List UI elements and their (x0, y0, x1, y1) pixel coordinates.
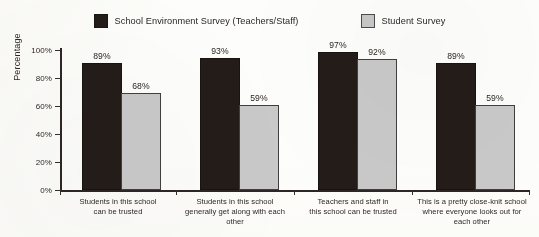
bar-value-group-2-teachers: 93% (211, 46, 229, 56)
x-tick-2 (294, 190, 295, 195)
x-tick-3 (412, 190, 413, 195)
bar-chart: School Environment Survey (Teachers/Staf… (0, 0, 539, 237)
x-category-label-4-line-2: where everyone looks out for (412, 207, 532, 217)
light-square-icon (361, 14, 375, 28)
plot-area: 89% 68% 93% 59% 97% 92% 89% 59% (60, 50, 528, 190)
x-category-label-3-line-2: this school can be trusted (296, 207, 410, 217)
bar-value-group-2-students: 59% (250, 93, 268, 103)
x-category-label-2: Students in this school generally get al… (178, 197, 292, 227)
x-category-label-1-line-1: Students in this school (62, 197, 174, 207)
y-tick-label-20: 20% (18, 158, 52, 167)
bar-value-group-1-students: 68% (132, 81, 150, 91)
chart-legend: School Environment Survey (Teachers/Staf… (0, 11, 539, 31)
legend-entry-school-environment-survey: School Environment Survey (Teachers/Staf… (94, 14, 299, 28)
x-tick-1 (176, 190, 177, 195)
bar-value-group-1-teachers: 89% (93, 51, 111, 61)
bar-group-3-students: 92% (357, 59, 397, 190)
bar-value-group-3-teachers: 97% (329, 40, 347, 50)
bar-group-1-teachers: 89% (82, 63, 122, 190)
bar-group-3-teachers: 97% (318, 52, 358, 190)
y-tick-label-80: 80% (18, 74, 52, 83)
legend-label-school-environment-survey: School Environment Survey (Teachers/Staf… (115, 16, 299, 26)
bar-value-group-4-teachers: 89% (447, 51, 465, 61)
x-tick-4 (529, 190, 530, 195)
bar-value-group-3-students: 92% (368, 47, 386, 57)
bar-group-1-students: 68% (121, 93, 161, 190)
x-category-label-2-line-1: Students in this school (178, 197, 292, 207)
x-category-label-4: This is a pretty close-knit school where… (412, 197, 532, 227)
x-category-label-2-line-3: other (178, 217, 292, 227)
y-tick-label-40: 40% (18, 130, 52, 139)
bar-group-2-students: 59% (239, 105, 279, 190)
x-tick-0 (60, 190, 61, 195)
x-axis-line (60, 190, 530, 192)
x-category-label-2-line-2: generally get along with each (178, 207, 292, 217)
x-category-label-1-line-2: can be trusted (62, 207, 174, 217)
dark-square-icon (94, 14, 108, 28)
bar-group-4-students: 59% (475, 105, 515, 190)
legend-entry-student-survey: Student Survey (361, 14, 446, 28)
bar-group-4-teachers: 89% (436, 63, 476, 190)
y-tick-label-100: 100% (18, 46, 52, 55)
x-category-label-4-line-3: each other (412, 217, 532, 227)
bar-group-2-teachers: 93% (200, 58, 240, 190)
x-category-label-3: Teachers and staff in this school can be… (296, 197, 410, 217)
y-tick-label-0: 0% (18, 186, 52, 195)
x-category-label-3-line-1: Teachers and staff in (296, 197, 410, 207)
x-category-label-1: Students in this school can be trusted (62, 197, 174, 217)
y-tick-label-60: 60% (18, 102, 52, 111)
bar-value-group-4-students: 59% (486, 93, 504, 103)
x-category-label-4-line-1: This is a pretty close-knit school (412, 197, 532, 207)
legend-label-student-survey: Student Survey (382, 16, 446, 26)
